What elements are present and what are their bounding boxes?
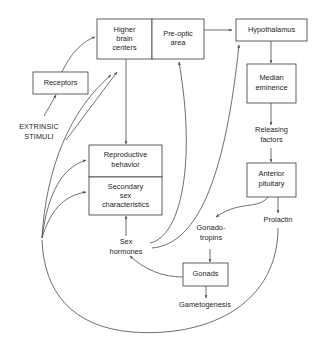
svg-text:behavior: behavior [111, 160, 140, 169]
label-gametogenesis: Gametogenesis [179, 300, 231, 309]
flow-diagram: Higher brain centers Pre-optic area Hypo… [0, 0, 321, 348]
label-extrinsic-stimuli: EXTRINSIC STIMULI [19, 122, 59, 141]
flow-diagram-canvas: Higher brain centers Pre-optic area Hypo… [0, 0, 321, 348]
svg-text:eminence: eminence [255, 83, 287, 92]
label-gonadotropins: Gonado- tropins [197, 223, 226, 242]
edge-feedback-to-secondary-sex-characteristics [42, 192, 86, 238]
node-receptors: Receptors [33, 72, 88, 94]
edge-extrinsic-stimuli-to-receptors [44, 95, 56, 116]
node-reproductive-behavior: Reproductive behavior [89, 145, 162, 177]
svg-text:centers: centers [112, 43, 137, 52]
svg-text:Receptors: Receptors [44, 78, 78, 87]
svg-text:Releasing: Releasing [255, 125, 288, 134]
node-gonads: Gonads [183, 263, 228, 286]
svg-text:pituitary: pituitary [259, 179, 285, 188]
svg-text:STIMULI: STIMULI [24, 132, 53, 141]
edge-prolactin-feedback-loop [42, 228, 278, 333]
node-pre-optic-area: Pre-optic area [152, 19, 204, 59]
edge-feedback-to-reproductive-behavior [42, 160, 86, 238]
edge-anterior-pituitary-to-gonadotropins [216, 197, 268, 217]
svg-text:Median: Median [259, 73, 283, 82]
svg-text:factors: factors [260, 135, 282, 144]
edge-gonads-to-sex-hormones [130, 256, 183, 277]
edge-receptors-to-higher-brain-centers [62, 37, 95, 72]
svg-text:Anterior: Anterior [259, 169, 285, 178]
svg-text:Gametogenesis: Gametogenesis [179, 300, 231, 309]
node-secondary-sex-characteristics: Secondary sex characteristics [89, 177, 162, 215]
node-median-eminence: Median eminence [247, 64, 296, 103]
node-anterior-pituitary: Anterior pituitary [247, 163, 296, 197]
svg-text:Sex: Sex [120, 237, 133, 246]
edge-sex-hormones-to-hypothalamus [152, 45, 239, 248]
svg-text:Gonado-: Gonado- [197, 223, 226, 232]
svg-text:Gonads: Gonads [193, 269, 219, 278]
svg-text:Secondary: Secondary [108, 182, 144, 191]
node-higher-brain-centers: Higher brain centers [97, 19, 152, 59]
svg-text:sex: sex [120, 191, 132, 200]
svg-text:Higher: Higher [114, 25, 136, 34]
svg-text:characteristics: characteristics [102, 200, 150, 209]
node-hypothalamus: Hypothalamus [236, 19, 307, 41]
svg-text:hormones: hormones [110, 247, 143, 256]
svg-text:brain: brain [116, 34, 132, 43]
svg-text:tropins: tropins [200, 233, 222, 242]
svg-text:Hypothalamus: Hypothalamus [248, 25, 296, 34]
svg-text:EXTRINSIC: EXTRINSIC [19, 122, 59, 131]
svg-text:Prolactin: Prolactin [264, 215, 293, 224]
label-sex-hormones: Sex hormones [110, 237, 143, 256]
label-releasing-factors: Releasing factors [255, 125, 288, 144]
svg-text:Reproductive: Reproductive [104, 150, 148, 159]
svg-text:area: area [171, 38, 187, 47]
svg-text:Pre-optic: Pre-optic [163, 29, 193, 38]
label-prolactin: Prolactin [264, 215, 293, 224]
